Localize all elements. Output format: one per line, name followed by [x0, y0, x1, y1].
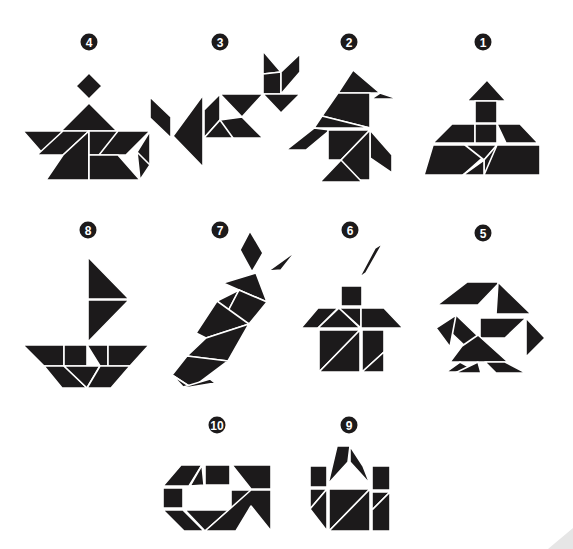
number-badge: 9 [341, 417, 358, 434]
number-badge: 6 [342, 222, 359, 239]
tangram-piece [372, 466, 390, 490]
number-badge: 2 [341, 34, 358, 51]
badge-number: 2 [346, 36, 353, 50]
number-badge: 3 [212, 34, 229, 51]
tangram-piece [64, 345, 87, 366]
number-badge: 4 [81, 34, 98, 51]
badge-number: 7 [217, 224, 224, 238]
badge-number: 1 [480, 36, 487, 50]
number-badge: 1 [475, 34, 492, 51]
tangram-piece [341, 286, 362, 306]
number-badge: 7 [212, 222, 229, 239]
number-badge: 5 [475, 225, 492, 242]
badge-number: 9 [346, 419, 353, 433]
tangram-piece [475, 124, 497, 143]
tangram-sheet: 43218765109 [0, 0, 573, 549]
badge-number: 3 [217, 36, 224, 50]
tangram-piece [310, 466, 327, 487]
tangram-piece [475, 101, 497, 123]
badge-number: 10 [210, 419, 224, 433]
tangram-piece [163, 488, 183, 508]
badge-number: 5 [480, 227, 487, 241]
badge-number: 6 [347, 224, 354, 238]
tangram-piece [205, 465, 230, 485]
badge-number: 8 [85, 224, 92, 238]
number-badge: 10 [209, 417, 226, 434]
number-badge: 8 [80, 222, 97, 239]
tangram-piece [263, 72, 281, 94]
badge-number: 4 [86, 36, 93, 50]
